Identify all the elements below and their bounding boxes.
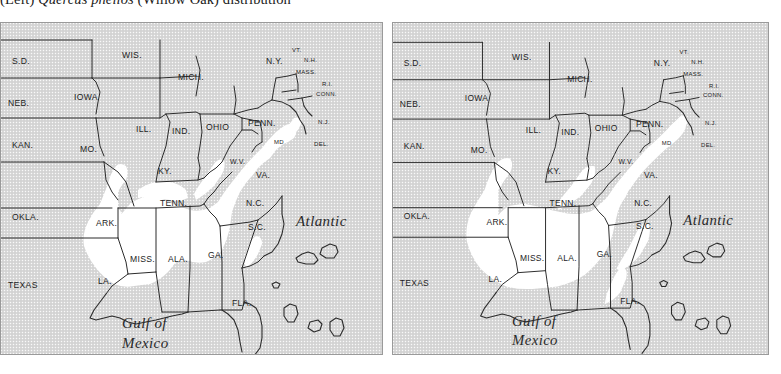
state-label-iowa: IOWA [465,93,488,103]
state-label-ill: ILL. [136,124,152,134]
state-label-md: MD [662,140,672,146]
state-label-del: DEL. [314,141,329,147]
figure-root: (Left) Quercus phellos (Willow Oak) dist… [0,0,781,374]
state-label-mich: MICH. [178,72,204,82]
state-label-nh: N.H. [691,59,704,65]
state-label-la: LA. [98,276,112,286]
state-label-penn: PENN. [636,119,663,129]
state-label-tenn: TENN. [160,198,187,208]
state-label-wis: WIS. [512,52,532,62]
state-label-nc: N.C. [246,198,264,208]
caption-common-name: (Willow Oak) [138,0,220,7]
figure-caption: (Left) Quercus phellos (Willow Oak) dist… [0,0,781,11]
state-label-va: VA. [256,170,270,180]
state-label-wis: WIS. [122,50,142,60]
state-label-kan: KAN. [404,141,425,151]
state-labels: S.D. WIS. MICH. N.Y. VT. N.H. MASS. R.I.… [8,47,337,308]
caption-prefix: (Left) [0,0,34,7]
species-range-area [84,118,303,287]
gulf-of-mexico-label-line2: Mexico [121,335,169,351]
state-label-wv: W.V. [618,158,633,165]
state-label-wv: W.V. [230,158,245,165]
state-label-nj: N.J. [318,119,330,125]
state-label-conn: CONN. [703,92,724,98]
state-label-md: MD [274,139,284,145]
state-label-penn: PENN. [248,118,276,128]
state-label-mass: MASS. [683,71,703,77]
state-label-ri: R.I. [709,83,719,89]
state-label-fla: FLA. [232,298,251,308]
gulf-of-mexico-label-line1: Gulf of [512,313,558,329]
state-label-nc: N.C. [634,198,652,208]
state-label-neb: NEB. [400,99,421,109]
state-label-mich: MICH. [567,74,592,84]
state-label-nj: N.J. [705,120,717,126]
left-distribution-map[interactable]: S.D. WIS. MICH. N.Y. VT. N.H. MASS. R.I.… [0,22,383,355]
state-label-okla: OKLA. [12,212,39,222]
state-label-ala: ALA. [168,254,188,264]
state-label-ark: ARK. [96,218,117,228]
state-label-sd: S.D. [404,58,422,68]
state-label-iowa: IOWA [74,92,98,102]
right-distribution-map[interactable]: S.D. WIS. MICH. N.Y. VT. N.H. MASS. R.I.… [392,22,769,355]
gulf-of-mexico-label-line2: Mexico [511,333,558,349]
state-label-nh: N.H. [304,57,317,63]
state-label-ala: ALA. [557,253,577,263]
state-label-ga: GA. [208,250,224,260]
state-label-ky: KY. [158,166,172,176]
state-label-ohio: OHIO [595,123,618,133]
state-label-mo: MO. [80,144,97,154]
state-label-ny: N.Y. [654,58,671,68]
state-label-mass: MASS. [296,69,316,75]
state-label-ind: IND. [561,127,579,137]
state-label-ill: ILL. [526,125,541,135]
state-label-miss: MISS. [520,253,545,263]
state-label-tenn: TENN. [549,198,576,208]
state-label-neb: NEB. [8,98,29,108]
state-label-okla: OKLA. [404,212,430,222]
state-label-ga: GA. [597,249,612,259]
state-label-ark: ARK. [486,217,507,227]
caption-suffix: distribution [223,0,291,7]
state-label-sc: S.C. [636,221,654,231]
state-label-vt: VT. [292,47,302,53]
state-label-miss: MISS. [130,254,155,264]
state-label-va: VA. [644,170,658,180]
atlantic-ocean-label: Atlantic [682,212,733,228]
state-label-la: LA. [488,275,502,285]
left-map-graphic: S.D. WIS. MICH. N.Y. VT. N.H. MASS. R.I.… [0,22,383,355]
state-label-ind: IND. [172,126,190,136]
state-label-conn: CONN. [316,91,337,97]
state-label-kan: KAN. [12,140,33,150]
state-label-mo: MO. [471,145,488,155]
state-label-ri: R.I. [322,81,333,87]
state-label-sc: S.C. [248,222,266,232]
gulf-of-mexico-label-line1: Gulf of [122,315,168,331]
atlantic-ocean-label: Atlantic [295,213,347,229]
right-map-graphic: S.D. WIS. MICH. N.Y. VT. N.H. MASS. R.I.… [392,22,769,355]
state-label-ohio: OHIO [206,122,229,132]
state-label-del: DEL. [701,142,715,148]
state-label-sd: S.D. [12,56,30,66]
state-label-ny: N.Y. [266,56,283,66]
caption-species-name: Quercus phellos [38,0,134,7]
state-label-fla: FLA. [620,296,639,306]
state-label-texas: TEXAS [8,280,38,290]
state-label-vt: VT. [679,49,688,55]
state-label-ky: KY. [548,166,561,176]
state-label-texas: TEXAS [400,278,429,288]
